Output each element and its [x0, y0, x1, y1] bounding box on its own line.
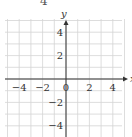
x-axis-arrow [123, 77, 128, 82]
x-tick-label: −4 [12, 82, 27, 93]
x-tick-label: −2 [35, 82, 50, 93]
y-tick-label: −2 [48, 97, 63, 108]
x-tick-label: 4 [110, 82, 116, 93]
y-tick-label: −4 [48, 120, 63, 131]
x-tick-label: 2 [86, 82, 92, 93]
y-tick-label: 2 [57, 50, 63, 61]
y-tick-label: 4 [57, 27, 63, 38]
y-axis-label: y [60, 8, 67, 19]
x-tick-label: 0 [63, 82, 69, 93]
x-axis-label: x [130, 73, 132, 84]
coordinate-grid: xy−4−202442−2−4 [0, 0, 132, 137]
